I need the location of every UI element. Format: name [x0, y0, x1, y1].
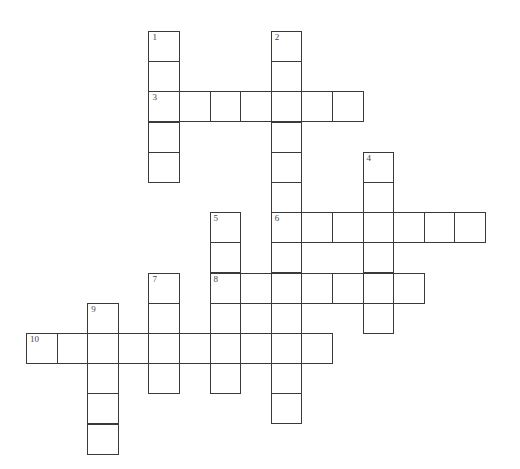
- clue-number: 7: [152, 275, 157, 284]
- clue-number: 6: [275, 214, 280, 223]
- crossword-cell[interactable]: [240, 333, 272, 364]
- crossword-cell[interactable]: [87, 363, 119, 394]
- crossword-cell[interactable]: [271, 122, 303, 153]
- crossword-cell[interactable]: 8: [210, 273, 242, 304]
- crossword-cell[interactable]: [87, 393, 119, 424]
- crossword-cell[interactable]: 7: [148, 273, 180, 304]
- crossword-cell[interactable]: [271, 273, 303, 304]
- crossword-cell[interactable]: [210, 333, 242, 364]
- crossword-cell[interactable]: [240, 91, 272, 122]
- crossword-cell[interactable]: [148, 152, 180, 183]
- crossword-cell[interactable]: [148, 61, 180, 92]
- crossword-cell[interactable]: [271, 393, 303, 424]
- crossword-cell[interactable]: [179, 91, 211, 122]
- crossword-cell[interactable]: [332, 273, 364, 304]
- crossword-cell[interactable]: [148, 333, 180, 364]
- crossword-cell[interactable]: 2: [271, 31, 303, 62]
- crossword-cell[interactable]: [363, 303, 395, 334]
- crossword-cell[interactable]: [271, 363, 303, 394]
- crossword-cell[interactable]: [118, 333, 150, 364]
- crossword-cell[interactable]: [363, 273, 395, 304]
- crossword-cell[interactable]: [148, 122, 180, 153]
- crossword-cell[interactable]: [363, 182, 395, 213]
- crossword-cell[interactable]: [332, 212, 364, 243]
- crossword-cell[interactable]: [363, 212, 395, 243]
- crossword-cell[interactable]: [301, 91, 333, 122]
- crossword-cell[interactable]: [271, 182, 303, 213]
- crossword-grid: 13264587910: [0, 0, 520, 469]
- clue-number: 8: [214, 275, 219, 284]
- crossword-cell[interactable]: [210, 91, 242, 122]
- crossword-cell[interactable]: 1: [148, 31, 180, 62]
- crossword-cell[interactable]: 3: [148, 91, 180, 122]
- crossword-cell[interactable]: [271, 152, 303, 183]
- crossword-cell[interactable]: [301, 212, 333, 243]
- clue-number: 9: [91, 305, 96, 314]
- crossword-cell[interactable]: [210, 242, 242, 273]
- crossword-cell[interactable]: [454, 212, 486, 243]
- crossword-cell[interactable]: [271, 303, 303, 334]
- crossword-cell[interactable]: 5: [210, 212, 242, 243]
- crossword-cell[interactable]: [393, 212, 425, 243]
- crossword-cell[interactable]: 9: [87, 303, 119, 334]
- crossword-cell[interactable]: [57, 333, 89, 364]
- crossword-cell[interactable]: [393, 273, 425, 304]
- crossword-cell[interactable]: [87, 424, 119, 455]
- clue-number: 4: [367, 154, 372, 163]
- crossword-cell[interactable]: 4: [363, 152, 395, 183]
- crossword-cell[interactable]: [210, 363, 242, 394]
- crossword-cell[interactable]: [301, 333, 333, 364]
- clue-number: 5: [214, 214, 219, 223]
- crossword-cell[interactable]: [179, 333, 211, 364]
- clue-number: 2: [275, 33, 280, 42]
- crossword-cell[interactable]: [363, 242, 395, 273]
- crossword-cell[interactable]: [424, 212, 456, 243]
- crossword-cell[interactable]: [271, 61, 303, 92]
- crossword-cell[interactable]: [271, 242, 303, 273]
- clue-number: 1: [152, 33, 157, 42]
- crossword-cell[interactable]: [271, 91, 303, 122]
- crossword-cell[interactable]: [148, 303, 180, 334]
- crossword-cell[interactable]: [148, 363, 180, 394]
- clue-number: 3: [152, 93, 157, 102]
- clue-number: 10: [30, 335, 39, 344]
- crossword-cell[interactable]: [87, 333, 119, 364]
- crossword-cell[interactable]: [210, 303, 242, 334]
- crossword-cell[interactable]: [301, 273, 333, 304]
- crossword-cell[interactable]: [240, 273, 272, 304]
- crossword-cell[interactable]: [271, 333, 303, 364]
- crossword-cell[interactable]: 10: [26, 333, 58, 364]
- crossword-cell[interactable]: 6: [271, 212, 303, 243]
- crossword-cell[interactable]: [332, 91, 364, 122]
